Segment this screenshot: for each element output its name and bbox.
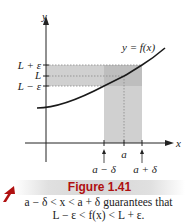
caption-line-1: a − δ < x < a + δ guarantees that — [12, 196, 185, 209]
caption-line-2: L − ε < f(x) < L + ε. — [12, 209, 185, 222]
x-tick-a: a — [121, 148, 127, 160]
y-tick-L-minus-epsilon: L − ε — [17, 80, 42, 92]
figure-title: Figure 1.41 — [14, 180, 185, 195]
curve-label: y = f(x) — [121, 41, 155, 54]
x-axis-arrow-icon — [165, 140, 174, 146]
epsilon-delta-diagram: y x y = f(x) L + ε L L − ε a − δ a a + δ — [0, 0, 185, 178]
a-plus-delta-pointer-icon — [140, 149, 144, 154]
y-axis-label: y — [41, 10, 47, 22]
figure-banner: Figure 1.41 — [14, 180, 185, 195]
x-tick-a-plus-delta: a + δ — [133, 163, 157, 175]
x-tick-a-minus-delta: a − δ — [92, 163, 116, 175]
x-axis-label: x — [175, 137, 181, 149]
a-minus-delta-pointer-icon — [102, 149, 106, 154]
